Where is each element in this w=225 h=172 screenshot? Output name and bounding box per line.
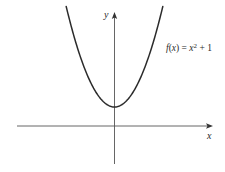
function-graph: y x f(x) = x2 + 1 xyxy=(0,0,225,172)
function-equals: = xyxy=(179,43,189,53)
y-axis xyxy=(112,12,117,164)
function-label: f(x) = x2 + 1 xyxy=(166,42,212,55)
function-rhs-tail: + 1 xyxy=(197,43,212,53)
x-axis xyxy=(17,123,213,128)
x-axis-label: x xyxy=(206,130,212,141)
y-axis-label: y xyxy=(103,9,109,20)
